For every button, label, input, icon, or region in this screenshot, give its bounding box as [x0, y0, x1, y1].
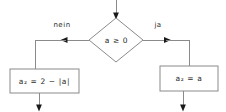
connector-exit-right — [180, 91, 186, 112]
connector-no-branch — [35, 37, 89, 69]
process-left-node[interactable]: a₂ = 2 − |a| — [10, 69, 79, 93]
connector-yes-branch — [143, 37, 189, 66]
no-branch-label: nein — [53, 21, 70, 29]
yes-branch-label: ja — [153, 21, 161, 29]
process-left-label: a₂ = 2 − |a| — [19, 77, 70, 86]
flowchart-canvas: a ≥ 0 nein ja a₂ = 2 − |a| a₂ = a — [0, 0, 226, 112]
exit-left-arrowhead-down-icon — [36, 105, 42, 112]
exit-right-arrowhead-down-icon — [180, 105, 186, 112]
flowchart-svg: a ≥ 0 nein ja a₂ = 2 − |a| a₂ = a — [0, 0, 226, 112]
connector-entry-top — [113, 0, 119, 20]
process-right-node[interactable]: a₂ = a — [160, 66, 218, 91]
connector-exit-left — [36, 93, 42, 112]
decision-node[interactable]: a ≥ 0 — [89, 18, 143, 62]
process-right-label: a₂ = a — [176, 74, 203, 83]
decision-label: a ≥ 0 — [105, 36, 128, 45]
